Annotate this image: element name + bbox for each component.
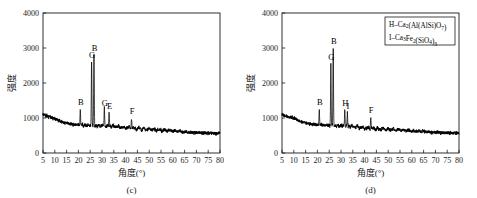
chart-svg-d: 5101520253035404550556065707580010002000… [239, 0, 477, 198]
xrd-trace [43, 54, 220, 135]
x-tick-label: 65 [420, 156, 428, 165]
x-tick-label: 10 [290, 156, 298, 165]
x-tick-label: 40 [361, 156, 369, 165]
x-tick-label: 30 [98, 156, 106, 165]
y-axis-title: 强度 [6, 74, 17, 92]
x-tick-label: 60 [408, 156, 416, 165]
x-tick-label: 30 [337, 156, 345, 165]
peak-label-G: G [328, 52, 334, 62]
peak-label-B: B [78, 97, 84, 107]
x-tick-label: 35 [110, 156, 118, 165]
x-tick-label: 80 [216, 156, 224, 165]
chart-panel-c: 5101520253035404550556065707580010002000… [0, 0, 238, 198]
x-tick-label: 50 [145, 156, 153, 165]
peak-label-E: E [107, 101, 112, 111]
x-tick-label: 40 [122, 156, 130, 165]
y-tick-label: 1000 [23, 114, 39, 123]
y-tick-label: 2000 [262, 79, 278, 88]
x-axis-title: 角度(°) [357, 167, 385, 178]
x-tick-label: 20 [313, 156, 321, 165]
peak-label-F: F [369, 105, 374, 115]
chart-panel-d: 5101520253035404550556065707580010002000… [239, 0, 477, 198]
panel-sublabel: (c) [127, 185, 137, 195]
x-tick-label: 60 [169, 156, 177, 165]
peak-label-F: F [130, 106, 135, 116]
x-tick-label: 5 [41, 156, 45, 165]
x-tick-label: 10 [51, 156, 59, 165]
x-tick-label: 75 [204, 156, 212, 165]
x-tick-label: 50 [384, 156, 392, 165]
y-tick-label: 0 [274, 149, 278, 158]
peak-label-I: I [346, 101, 349, 111]
y-tick-label: 2000 [23, 79, 39, 88]
xrd-figure: 5101520253035404550556065707580010002000… [0, 0, 477, 198]
y-tick-label: 4000 [262, 9, 278, 18]
x-tick-label: 15 [302, 156, 310, 165]
x-tick-label: 45 [133, 156, 141, 165]
y-tick-label: 1000 [262, 114, 278, 123]
panel-sublabel: (d) [365, 185, 376, 195]
legend-item-1: H–Ca2(Al(AlSi)O7) [389, 21, 447, 32]
x-tick-label: 5 [280, 156, 284, 165]
peak-label-B: B [317, 97, 323, 107]
x-tick-label: 15 [63, 156, 71, 165]
x-tick-label: 65 [181, 156, 189, 165]
x-tick-label: 70 [192, 156, 200, 165]
x-tick-label: 45 [372, 156, 380, 165]
x-axis-title: 角度(°) [118, 167, 146, 178]
x-tick-label: 55 [157, 156, 165, 165]
y-tick-label: 4000 [23, 9, 39, 18]
y-axis-title-group: 强度 [6, 74, 17, 92]
y-axis-title-group: 强度 [245, 74, 256, 92]
y-tick-label: 0 [35, 149, 39, 158]
peak-label-B: B [92, 43, 98, 53]
x-tick-label: 35 [349, 156, 357, 165]
x-tick-label: 25 [86, 156, 94, 165]
x-tick-label: 25 [325, 156, 333, 165]
y-tick-label: 3000 [23, 44, 39, 53]
y-tick-label: 3000 [262, 44, 278, 53]
x-tick-label: 55 [396, 156, 404, 165]
y-axis-title: 强度 [245, 74, 256, 92]
peak-label-B: B [331, 36, 337, 46]
x-tick-label: 75 [443, 156, 451, 165]
x-tick-label: 70 [431, 156, 439, 165]
chart-svg-c: 5101520253035404550556065707580010002000… [0, 0, 238, 198]
xrd-trace [282, 48, 459, 135]
x-tick-label: 20 [74, 156, 82, 165]
x-tick-label: 80 [455, 156, 463, 165]
